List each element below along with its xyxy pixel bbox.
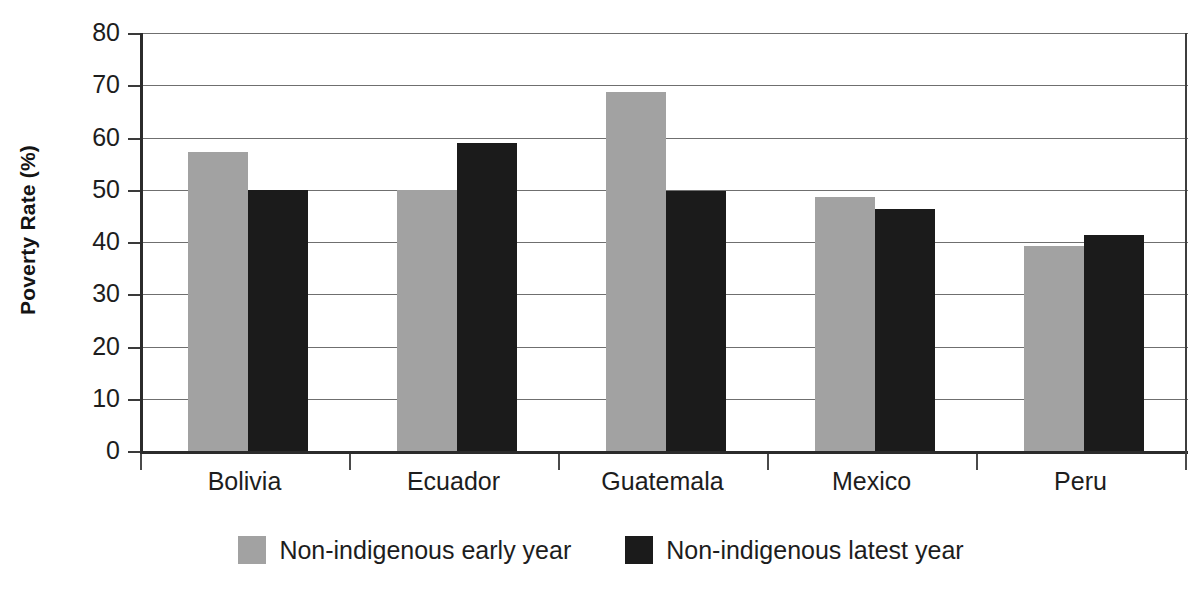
legend-item-early-year: Non-indigenous early year (238, 536, 571, 564)
bar-mexico-early-year (815, 197, 875, 451)
x-axis-label-bolivia: Bolivia (140, 466, 349, 496)
bar-guatemala-early-year (606, 92, 666, 451)
legend-item-latest-year: Non-indigenous latest year (625, 536, 963, 564)
legend-label: Non-indigenous early year (279, 536, 571, 564)
bar-peru-early-year (1024, 246, 1084, 451)
category-separator (1185, 454, 1187, 470)
bar-ecuador-latest-year (457, 143, 517, 451)
y-axis-tick-label: 60 (56, 125, 120, 150)
y-axis-title-text: Poverty Rate (%) (16, 145, 40, 315)
bar-bolivia-latest-year (248, 190, 308, 451)
bar-guatemala-latest-year (666, 191, 726, 451)
y-axis-tick-label: 50 (56, 177, 120, 202)
plot-area (140, 33, 1188, 454)
x-axis-label-guatemala: Guatemala (558, 466, 767, 496)
y-axis-tick-label: 40 (56, 229, 120, 254)
legend: Non-indigenous early yearNon-indigenous … (0, 536, 1202, 564)
gridline (143, 33, 1188, 34)
bar-ecuador-early-year (397, 190, 457, 451)
y-axis-tick-label: 20 (56, 334, 120, 359)
legend-swatch-latest-year (625, 536, 653, 564)
x-axis-label-ecuador: Ecuador (349, 466, 558, 496)
x-axis-label-mexico: Mexico (767, 466, 976, 496)
y-axis-tick-label: 70 (56, 72, 120, 97)
bar-bolivia-early-year (188, 152, 248, 451)
y-axis-tick-label: 80 (56, 20, 120, 45)
y-axis-tick-label: 0 (56, 438, 120, 463)
legend-swatch-early-year (238, 536, 266, 564)
gridline (143, 138, 1188, 139)
y-axis-title: Poverty Rate (%) (0, 0, 56, 460)
y-axis-tick-label: 10 (56, 386, 120, 411)
bar-mexico-latest-year (875, 209, 935, 451)
x-axis-label-peru: Peru (976, 466, 1185, 496)
gridline (143, 85, 1188, 86)
bar-peru-latest-year (1084, 235, 1144, 451)
y-axis-tick-label: 30 (56, 281, 120, 306)
plot-frame-right-rule (1185, 33, 1187, 454)
legend-label: Non-indigenous latest year (666, 536, 963, 564)
bar-chart: Poverty Rate (%) 80706050403020100 Boliv… (0, 0, 1202, 616)
